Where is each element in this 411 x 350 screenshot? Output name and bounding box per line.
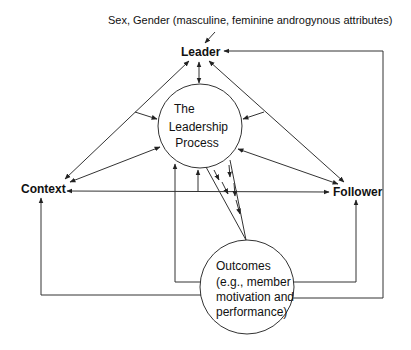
follower-process-arrow xyxy=(238,149,338,184)
annotation-arrow xyxy=(205,32,215,43)
outcomes-process-arrow xyxy=(175,164,201,282)
left-diagonal-to-process-arrow xyxy=(135,112,157,119)
wedge-right-edge xyxy=(230,160,246,240)
wedge-arrow xyxy=(214,170,219,180)
context-follower-arrow xyxy=(67,191,329,192)
wedge-left-edge xyxy=(206,167,246,240)
gender-annotation: Sex, Gender (masculine, feminine androgy… xyxy=(108,14,392,26)
outcomes-context-arrow xyxy=(41,198,201,295)
leader-node: Leader xyxy=(181,45,221,59)
outcomes-label: Outcomes (e.g., member motivation and pe… xyxy=(216,259,297,319)
follower-node: Follower xyxy=(333,185,383,199)
context-node: Context xyxy=(21,182,66,196)
leadership-process-label: The Leadership Process xyxy=(169,102,232,150)
context-process-arrow xyxy=(70,147,160,182)
leadership-diagram: Sex, Gender (masculine, feminine androgy… xyxy=(0,0,411,350)
outcomes-follower-arrow xyxy=(293,200,356,282)
wedge-arrow xyxy=(222,182,228,194)
right-diagonal-to-process-arrow xyxy=(243,112,264,119)
wedge-arrow xyxy=(229,165,230,177)
